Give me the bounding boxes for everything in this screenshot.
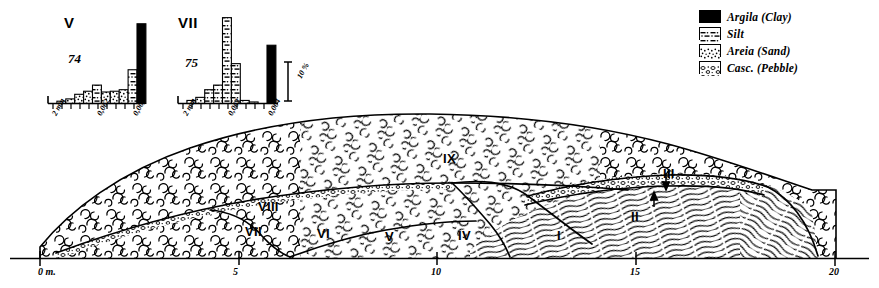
axis-tick-label-1: 5 bbox=[233, 266, 238, 277]
legend-item-silt: Silt bbox=[699, 25, 798, 42]
unit-label-II: II bbox=[631, 209, 639, 224]
histogram-V-graphic bbox=[48, 24, 146, 109]
clay-swatch bbox=[699, 10, 721, 23]
geological-cross-section-figure: V 74 2 mm 0,062 0,004 VII 75 2 mm 0,062 … bbox=[0, 0, 879, 288]
histogram-bar bbox=[119, 90, 128, 104]
unit-label-IV: IV bbox=[458, 228, 471, 243]
axis-tick-label-0: 0 m. bbox=[38, 266, 56, 277]
histogram-V-sample-number: 74 bbox=[68, 51, 81, 67]
sand-swatch bbox=[699, 44, 721, 57]
histogram-bar bbox=[137, 24, 146, 104]
scale-bar-10-percent bbox=[284, 62, 292, 101]
silt-swatch bbox=[699, 27, 721, 40]
unit-label-VIII: VIII bbox=[258, 199, 279, 214]
legend-item-sand: Areia (Sand) bbox=[699, 42, 798, 59]
histogram-VII-sample-number: 75 bbox=[185, 55, 198, 71]
histogram-bar bbox=[110, 91, 119, 103]
legend-item-pebble: Casc. (Pebble) bbox=[699, 59, 798, 76]
legend-item-clay: Argila (Clay) bbox=[699, 8, 798, 25]
histogram-bar bbox=[205, 90, 214, 104]
histogram-bar bbox=[75, 94, 84, 103]
unit-label-IX: IX bbox=[443, 151, 456, 166]
histogram-bar bbox=[214, 85, 223, 103]
pebble-swatch bbox=[699, 61, 721, 74]
unit-label-VII: VII bbox=[245, 224, 262, 239]
axis-tick-label-4: 20 bbox=[829, 266, 839, 277]
legend-label-silt: Silt bbox=[727, 28, 744, 40]
axis-tick-label-2: 10 bbox=[431, 266, 441, 277]
histogram-V-label: V bbox=[64, 14, 75, 31]
legend-label-clay: Argila (Clay) bbox=[727, 11, 792, 23]
unit-label-I: I bbox=[557, 228, 561, 243]
histogram-bar bbox=[267, 45, 276, 103]
legend-label-pebble: Casc. (Pebble) bbox=[727, 62, 798, 74]
unit-label-V: V bbox=[385, 229, 394, 244]
legend: Argila (Clay) Silt Areia (Sand) Casc. (P… bbox=[699, 8, 798, 76]
histogram-bar bbox=[223, 18, 232, 104]
histogram-VII-label: VII bbox=[178, 14, 198, 31]
histogram-bar bbox=[128, 70, 137, 104]
unit-label-III: III bbox=[663, 166, 675, 181]
legend-label-sand: Areia (Sand) bbox=[727, 45, 790, 57]
unit-label-VI: VI bbox=[317, 226, 330, 241]
axis-tick-label-3: 15 bbox=[630, 266, 640, 277]
histogram-bar bbox=[84, 91, 93, 103]
